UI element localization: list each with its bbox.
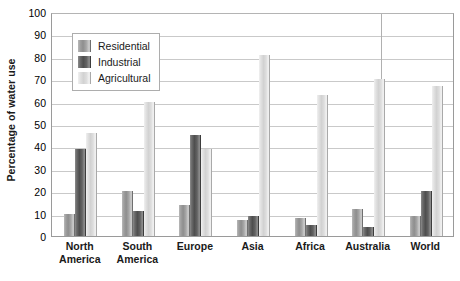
x-axis-tick-line2: America [117,253,158,266]
y-axis-tick: 10 [34,209,46,221]
x-axis-tick: SouthAmerica [117,240,158,266]
bar-residential-south-america [122,191,133,236]
bar-agricultural-asia [259,55,270,236]
x-axis-tick: Europe [177,240,213,253]
bar-industrial-africa [306,225,317,236]
y-axis-tick: 80 [34,52,46,64]
bar-chart: Percentage of water use 1009080706050403… [0,0,460,281]
bar-residential-asia [237,220,248,236]
bar-agricultural-south-america [144,102,155,236]
bar-residential-africa [295,218,306,236]
x-axis-tick-line1: World [410,240,440,252]
legend-swatch-icon [78,40,91,52]
bar-industrial-north-america [75,149,86,236]
chart-legend: ResidentialIndustrialAgricultural [72,33,160,91]
x-axis-tick: Asia [241,240,263,253]
y-axis-tick-labels: 1009080706050403020100 [22,13,50,237]
y-axis-title-label: Percentage of water use [5,58,17,181]
x-axis-tick-line1: Australia [345,240,390,252]
bar-industrial-south-america [133,211,144,236]
x-axis-tick: NorthAmerica [59,240,100,266]
legend-item-label: Industrial [98,56,141,68]
bar-residential-europe [179,205,190,236]
y-axis-tick: 60 [34,97,46,109]
bar-residential-north-america [64,214,75,236]
bar-agricultural-australia [374,79,385,236]
legend-item-label: Agricultural [98,72,151,84]
y-axis-tick: 100 [28,7,46,19]
bar-industrial-world [421,191,432,236]
y-axis-tick: 20 [34,186,46,198]
x-axis-tick: Africa [295,240,325,253]
x-axis-tick: Australia [345,240,390,253]
bar-industrial-asia [248,216,259,236]
legend-swatch-icon [78,72,91,84]
bar-agricultural-europe [201,149,212,236]
y-axis-title: Percentage of water use [0,0,22,240]
bar-residential-world [410,216,421,236]
y-axis-tick: 0 [40,231,46,243]
x-axis-tick-labels: NorthAmericaSouthAmericaEuropeAsiaAfrica… [51,240,454,281]
x-axis-tick-line1: South [122,240,152,252]
bar-agricultural-north-america [86,133,97,236]
legend-item: Agricultural [78,70,151,86]
y-axis-tick: 70 [34,74,46,86]
y-axis-tick: 40 [34,141,46,153]
bar-industrial-europe [190,135,201,236]
bar-industrial-australia [363,227,374,236]
x-axis-tick: World [410,240,440,253]
legend-item: Industrial [78,54,151,70]
x-axis-tick-line2: America [59,253,100,266]
legend-item: Residential [78,38,151,54]
legend-item-label: Residential [98,40,150,52]
y-axis-tick: 30 [34,164,46,176]
x-axis-tick-line1: Europe [177,240,213,252]
x-axis-tick-line1: Asia [241,240,263,252]
bar-agricultural-world [432,86,443,236]
y-axis-tick: 90 [34,29,46,41]
x-axis-tick-line1: Africa [295,240,325,252]
bar-agricultural-africa [317,95,328,236]
legend-swatch-icon [78,56,91,68]
bar-residential-australia [352,209,363,236]
x-axis-tick-line1: North [66,240,94,252]
y-axis-tick: 50 [34,119,46,131]
